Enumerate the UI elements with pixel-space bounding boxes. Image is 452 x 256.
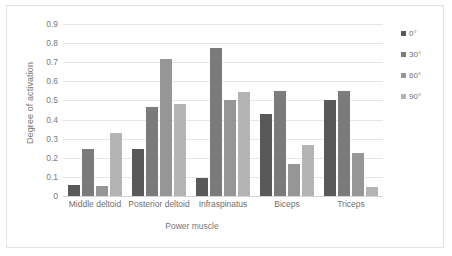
bar-groups: [63, 24, 383, 196]
bar: [288, 164, 300, 196]
legend-label: 0°: [409, 29, 417, 38]
y-axis-tick-label: 0.8: [46, 38, 58, 48]
legend-swatch-icon: [401, 31, 406, 36]
y-axis-tick-label: 0.9: [46, 19, 58, 29]
y-axis-tick-label: 0.5: [46, 95, 58, 105]
bar: [338, 91, 350, 196]
legend-item[interactable]: 0°: [401, 23, 452, 44]
y-axis-tick-label: 0.4: [46, 115, 58, 125]
bar: [174, 104, 186, 196]
y-axis-tick-label: 0.7: [46, 57, 58, 67]
y-axis-tick-label: 0: [53, 191, 58, 201]
legend-swatch-icon: [401, 73, 406, 78]
bar: [302, 145, 314, 196]
chart-container: Degree of activation 0.90.80.70.60.50.40…: [6, 5, 444, 248]
bar: [260, 114, 272, 196]
bar: [366, 187, 378, 196]
legend-swatch-icon: [401, 52, 406, 57]
bar: [196, 178, 208, 196]
bar: [160, 59, 172, 196]
legend-item[interactable]: 60°: [401, 65, 452, 86]
bar: [82, 149, 94, 196]
bar: [274, 91, 286, 196]
bar-group: [255, 24, 319, 196]
bar: [132, 149, 144, 196]
legend-label: 60°: [409, 71, 421, 80]
legend-swatch-icon: [401, 94, 406, 99]
x-axis-category-label: Middle deltoid: [63, 199, 127, 209]
x-axis-title: Power muscle: [7, 221, 377, 231]
bar-group: [191, 24, 255, 196]
bar: [68, 185, 80, 196]
bar: [96, 186, 108, 197]
legend: 0°30°60°90°: [401, 23, 452, 107]
bar: [146, 107, 158, 196]
gridline: [63, 196, 383, 197]
y-axis-tick-label: 0.1: [46, 172, 58, 182]
legend-item[interactable]: 30°: [401, 44, 452, 65]
bar: [352, 153, 364, 196]
x-axis-category-labels: Middle deltoidPosterior deltoidInfraspin…: [63, 199, 383, 209]
bar-group: [319, 24, 383, 196]
bar: [238, 92, 250, 196]
legend-label: 30°: [409, 50, 421, 59]
bar-group: [127, 24, 191, 196]
x-axis-category-label: Posterior deltoid: [127, 199, 191, 209]
bar-group: [63, 24, 127, 196]
y-axis-tick-label: 0.2: [46, 153, 58, 163]
y-axis-tick-label: 0.3: [46, 134, 58, 144]
y-axis-title: Degree of activation: [25, 33, 35, 173]
legend-label: 90°: [409, 92, 421, 101]
x-axis-category-label: Triceps: [319, 199, 383, 209]
x-axis-category-label: Infraspinatus: [191, 199, 255, 209]
bar: [224, 100, 236, 197]
y-axis-tick-label: 0.6: [46, 76, 58, 86]
bar: [324, 100, 336, 196]
bar: [210, 48, 222, 196]
legend-item[interactable]: 90°: [401, 86, 452, 107]
plot-area: 0.90.80.70.60.50.40.30.20.10: [63, 24, 383, 196]
bar: [110, 133, 122, 196]
x-axis-category-label: Biceps: [255, 199, 319, 209]
